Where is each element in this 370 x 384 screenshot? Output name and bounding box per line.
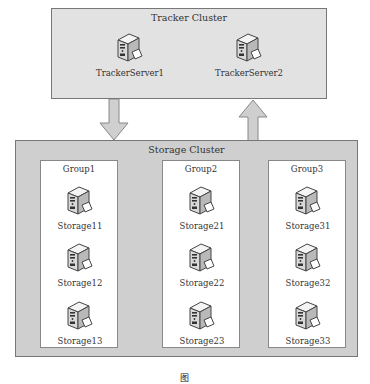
server-icon bbox=[65, 299, 95, 331]
storage-label: Storage13 bbox=[40, 336, 120, 346]
group-title: Group1 bbox=[41, 164, 117, 174]
server-icon bbox=[187, 299, 217, 331]
storage-label: Storage22 bbox=[162, 278, 242, 288]
storage-node: Storage13 bbox=[40, 299, 120, 346]
storage-label: Storage12 bbox=[40, 278, 120, 288]
figure-caption: 图 bbox=[180, 371, 189, 384]
storage-node: Storage32 bbox=[268, 241, 348, 288]
server-icon bbox=[65, 241, 95, 273]
server-icon bbox=[115, 31, 145, 63]
group-3: Group3 Storage31 Storage32 Storage33 bbox=[268, 160, 346, 348]
server-icon bbox=[234, 31, 264, 63]
storage-node: Storage33 bbox=[268, 299, 348, 346]
server-icon bbox=[293, 299, 323, 331]
server-icon bbox=[293, 241, 323, 273]
storage-label: Storage11 bbox=[40, 221, 120, 231]
tracker-server-label: TrackerServer1 bbox=[90, 68, 170, 78]
storage-label: Storage32 bbox=[268, 278, 348, 288]
group-2: Group2 Storage21 Storage22 Storage23 bbox=[162, 160, 240, 348]
tracker-cluster-title: Tracker Cluster bbox=[52, 12, 326, 23]
group-title: Group3 bbox=[269, 164, 345, 174]
storage-node: Storage22 bbox=[162, 241, 242, 288]
storage-cluster-title: Storage Cluster bbox=[16, 144, 357, 155]
server-icon bbox=[187, 184, 217, 216]
server-icon bbox=[187, 241, 217, 273]
storage-node: Storage11 bbox=[40, 184, 120, 231]
storage-node: Storage31 bbox=[268, 184, 348, 231]
storage-cluster: Storage Cluster Group1 Storage11 Storage… bbox=[15, 140, 358, 357]
storage-node: Storage12 bbox=[40, 241, 120, 288]
tracker-server-label: TrackerServer2 bbox=[209, 68, 289, 78]
group-title: Group2 bbox=[163, 164, 239, 174]
group-1: Group1 Storage11 Storage12 Storage13 bbox=[40, 160, 118, 348]
down-arrow-icon bbox=[98, 99, 130, 141]
server-icon bbox=[65, 184, 95, 216]
storage-label: Storage31 bbox=[268, 221, 348, 231]
storage-label: Storage23 bbox=[162, 336, 242, 346]
storage-node: Storage23 bbox=[162, 299, 242, 346]
server-icon bbox=[293, 184, 323, 216]
storage-label: Storage33 bbox=[268, 336, 348, 346]
up-arrow-icon bbox=[237, 99, 269, 141]
tracker-server-1: TrackerServer1 bbox=[90, 31, 170, 78]
tracker-cluster: Tracker Cluster TrackerServer1 TrackerSe… bbox=[51, 8, 327, 99]
storage-node: Storage21 bbox=[162, 184, 242, 231]
storage-label: Storage21 bbox=[162, 221, 242, 231]
tracker-server-2: TrackerServer2 bbox=[209, 31, 289, 78]
